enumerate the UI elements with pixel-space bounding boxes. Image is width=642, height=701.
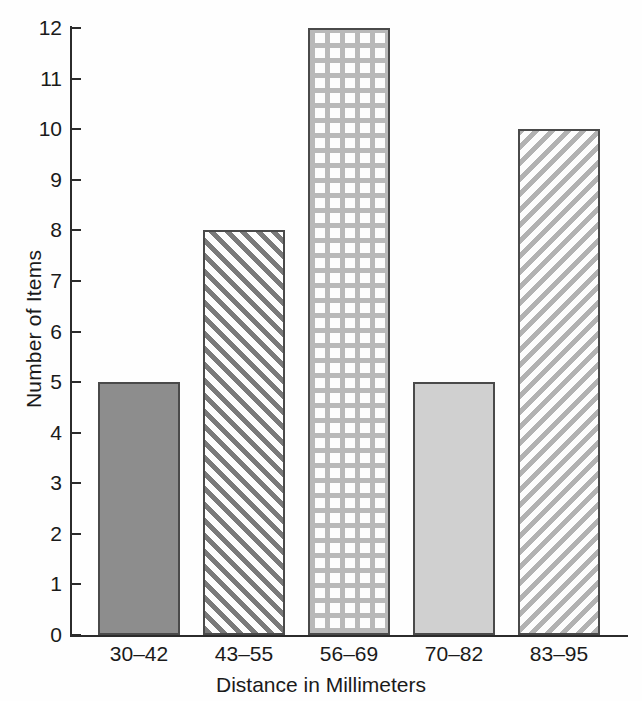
y-axis-tick-label: 2	[16, 523, 62, 544]
x-axis-tick-label: 70–82	[413, 642, 495, 666]
bar-fill	[520, 131, 598, 633]
y-axis-tick-label: 7	[16, 270, 62, 291]
y-axis-tick	[72, 432, 81, 434]
y-axis-tick	[72, 583, 81, 585]
y-axis-tick	[72, 128, 81, 130]
bar	[413, 382, 495, 635]
bar-chart: Number of Items 0123456789101112 Distanc…	[0, 0, 642, 701]
y-axis-tick	[72, 533, 81, 535]
y-axis-tick-label: 10	[16, 118, 62, 139]
y-axis-tick-label: 12	[16, 17, 62, 38]
x-axis-tick-label: 43–55	[203, 642, 285, 666]
y-axis-tick	[72, 78, 81, 80]
y-axis-tick-label: 0	[16, 624, 62, 645]
x-axis-tick-label: 83–95	[518, 642, 600, 666]
bar	[518, 129, 600, 635]
bar-fill	[205, 232, 283, 633]
y-axis-tick	[72, 27, 81, 29]
y-axis-tick	[72, 229, 81, 231]
y-axis-tick	[72, 179, 81, 181]
x-axis-tick-label: 56–69	[308, 642, 390, 666]
x-axis-line	[70, 635, 628, 637]
x-axis-tick-label: 30–42	[98, 642, 180, 666]
bar	[98, 382, 180, 635]
y-axis-tick-label: 3	[16, 472, 62, 493]
bar-fill	[100, 384, 178, 633]
y-axis-tick-label: 6	[16, 321, 62, 342]
y-axis-tick	[72, 482, 81, 484]
y-axis-tick-label: 9	[16, 169, 62, 190]
bar-fill	[415, 384, 493, 633]
bar-fill	[310, 30, 388, 633]
y-axis-tick	[72, 634, 81, 636]
y-axis-tick-labels: 0123456789101112	[8, 0, 62, 701]
bar	[203, 230, 285, 635]
y-axis-tick	[72, 280, 81, 282]
y-axis-tick-label: 1	[16, 573, 62, 594]
y-axis-tick	[72, 381, 81, 383]
y-axis-tick-label: 11	[16, 68, 62, 89]
x-axis-title: Distance in Millimeters	[0, 673, 642, 697]
y-axis-tick	[72, 331, 81, 333]
y-axis-tick-label: 5	[16, 371, 62, 392]
bar	[308, 28, 390, 635]
plot-area	[70, 28, 628, 635]
y-axis-tick-label: 4	[16, 422, 62, 443]
y-axis-tick-label: 8	[16, 219, 62, 240]
